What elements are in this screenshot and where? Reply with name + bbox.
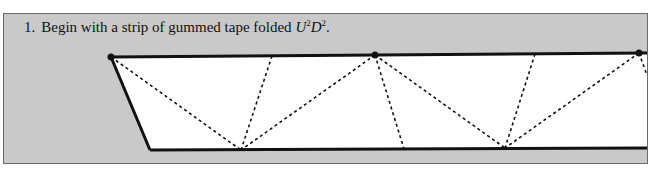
vertex-dot (108, 54, 115, 61)
vertex-dot (636, 50, 643, 57)
tape-diagram (0, 0, 653, 176)
tape-bottom-edge (150, 148, 647, 150)
vertex-dot (372, 52, 379, 59)
